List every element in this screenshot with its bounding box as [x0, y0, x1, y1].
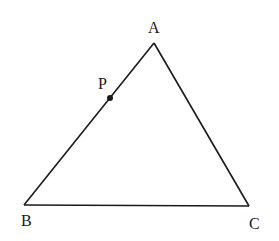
vertex-label-b: B — [21, 212, 32, 229]
segment-ab — [24, 43, 154, 205]
vertex-label-a: A — [148, 19, 160, 36]
triangle-diagram: A B C P — [0, 0, 279, 241]
point-p-dot — [107, 95, 113, 101]
vertex-label-c: C — [249, 215, 260, 232]
segment-bc — [24, 205, 249, 206]
segment-ca — [154, 43, 249, 206]
point-label-p: P — [98, 75, 107, 92]
